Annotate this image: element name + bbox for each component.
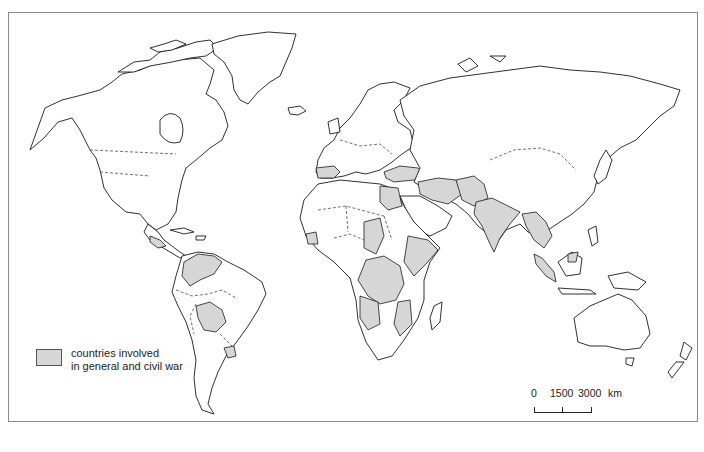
shaded-west-africa (306, 232, 318, 244)
iceland (288, 106, 306, 115)
scale-bar: 0 1500 3000 km (528, 387, 648, 417)
legend-label: countries involved in general and civil … (71, 347, 183, 373)
scale-bar-mid-tick (562, 407, 563, 412)
legend-line-2: in general and civil war (71, 360, 183, 373)
madagascar (430, 302, 442, 330)
scale-tick-1500: 1500 (550, 387, 573, 399)
north-america (30, 58, 228, 230)
legend-line-1: countries involved (71, 347, 183, 360)
scale-bar-line (534, 407, 592, 413)
scale-tick-0: 0 (531, 387, 537, 399)
shaded-borneo (568, 252, 578, 262)
new-zealand (680, 342, 692, 360)
scale-unit: km (608, 387, 622, 399)
legend-swatch-war (36, 349, 62, 366)
world-map (0, 0, 704, 452)
map-legend: countries involved in general and civil … (36, 347, 183, 373)
australia (574, 294, 650, 350)
scale-tick-3000: 3000 (578, 387, 601, 399)
greenland (212, 32, 296, 104)
shaded-sumatra (534, 254, 556, 282)
